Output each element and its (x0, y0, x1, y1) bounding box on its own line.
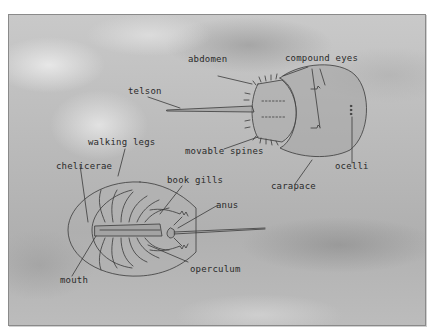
label-telson: telson (128, 86, 162, 96)
pointer-walking-legs (118, 149, 125, 176)
label-ocelli: ocelli (335, 161, 369, 171)
pointer-telson (148, 97, 180, 108)
label-anus: anus (216, 200, 238, 210)
abdomen-outline (252, 80, 296, 142)
label-carapace: carapace (271, 181, 316, 191)
ventral-view (68, 182, 265, 276)
label-compound-eyes: compound eyes (285, 53, 358, 63)
label-abdomen: abdomen (188, 54, 227, 64)
label-book-gills: book gills (167, 175, 223, 185)
label-movable-spines: movable spines (185, 146, 264, 156)
label-chelicerae: chelicerae (56, 161, 112, 171)
pointer-abdomen (218, 76, 252, 84)
telson-outline (167, 106, 254, 112)
label-mouth: mouth (60, 275, 88, 285)
label-walking-legs: walking legs (88, 137, 155, 147)
dorsal-view (167, 65, 366, 157)
label-operculum: operculum (190, 264, 241, 274)
